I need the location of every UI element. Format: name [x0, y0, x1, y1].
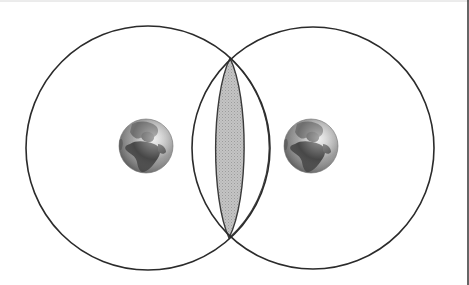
left-globe-icon [118, 119, 173, 173]
right-globe-icon [283, 119, 338, 173]
overlap-diagram [0, 0, 469, 285]
intersection-lens [216, 58, 245, 238]
